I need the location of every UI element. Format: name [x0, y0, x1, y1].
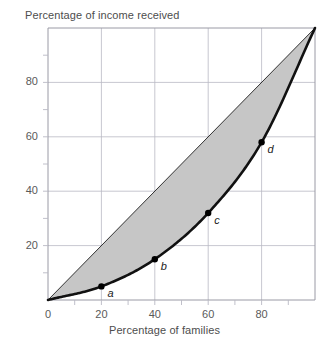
x-tick-label-0: 0 [34, 308, 62, 320]
x-tick-label-20: 20 [87, 308, 115, 320]
plot-canvas [0, 0, 329, 342]
x-tick-label-40: 40 [141, 308, 169, 320]
data-point-b [152, 256, 158, 262]
point-label-c: c [214, 214, 220, 226]
point-label-a: a [107, 287, 113, 299]
y-tick-label-20: 20 [10, 239, 38, 251]
data-point-c [205, 210, 211, 216]
point-label-b: b [161, 260, 167, 272]
y-tick-label-60: 60 [10, 130, 38, 142]
series-layer [48, 28, 315, 300]
data-point-a [98, 283, 104, 289]
point-label-d: d [268, 143, 274, 155]
data-point-d [258, 139, 264, 145]
x-tick-label-60: 60 [194, 308, 222, 320]
lorenz-curve-chart: Percentage of income received 20406080 0… [0, 0, 329, 342]
y-tick-label-80: 80 [10, 75, 38, 87]
y-tick-label-40: 40 [10, 184, 38, 196]
x-axis-title: Percentage of families [0, 324, 329, 336]
x-tick-label-80: 80 [248, 308, 276, 320]
